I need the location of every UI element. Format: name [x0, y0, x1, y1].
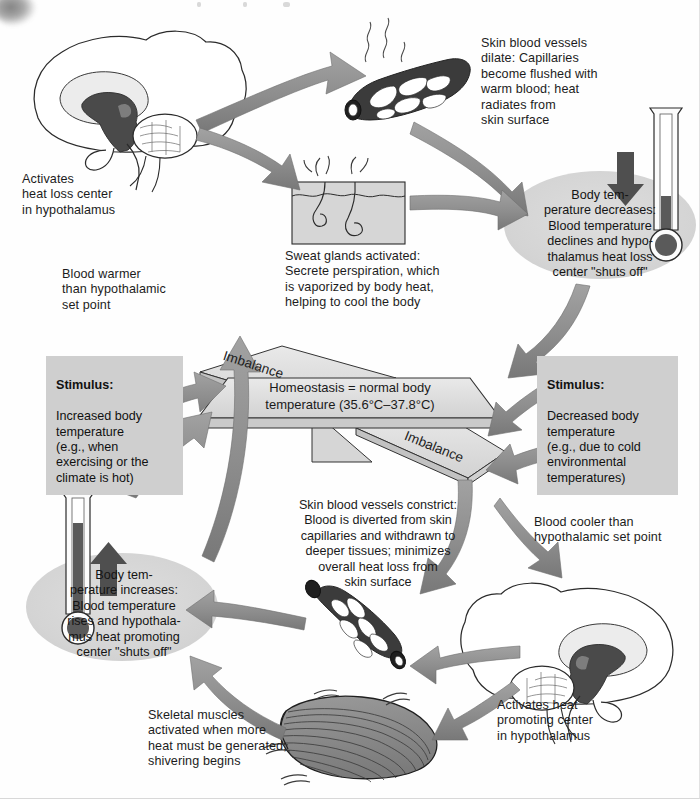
arrow-brain-to-sweat — [196, 128, 300, 190]
label-activates-heat-promoting: Activates heat promoting center in hypot… — [497, 698, 593, 744]
brain-sagittal-icon-top — [34, 31, 246, 192]
label-temp-increases: Body tem- perature increases: Blood temp… — [36, 568, 212, 660]
label-homeostasis: Homeostasis = normal body temperature (3… — [215, 379, 485, 413]
skeletal-muscle-icon — [264, 690, 437, 785]
label-blood-warmer: Blood warmer than hypothalamic set point — [62, 267, 166, 313]
diagram-canvas: Activates heat loss center in hypothalam… — [0, 0, 700, 799]
label-vessels-dilate: Skin blood vessels dilate: Capillaries b… — [481, 36, 598, 128]
dilated-capillary-bed-icon — [345, 59, 470, 120]
constricted-capillary-bed-icon — [303, 578, 409, 671]
stimulus-right-body: Decreased body temperature (e.g., due to… — [547, 409, 641, 485]
label-temp-decreases: Body tem- perature decreases: Blood temp… — [512, 188, 688, 280]
label-sweat-glands: Sweat glands activated: Secrete perspira… — [285, 249, 440, 311]
label-blood-cooler: Blood cooler than hypothalamic set point — [534, 515, 662, 546]
label-skeletal-muscles: Skeletal muscles activated when more hea… — [148, 708, 287, 770]
label-vessels-constrict: Skin blood vessels constrict: Blood is d… — [270, 498, 486, 590]
heat-waves-icon — [365, 18, 405, 62]
skin-sweat-gland-icon — [292, 156, 405, 244]
stimulus-left-heading: Stimulus: — [56, 378, 174, 393]
stimulus-right-box: Stimulus: Decreased body temperature (e.… — [537, 356, 678, 495]
stimulus-left-box: Stimulus: Increased body temperature (e.… — [46, 356, 183, 495]
label-activates-heat-loss: Activates heat loss center in hypothalam… — [22, 172, 115, 218]
stimulus-left-body: Increased body temperature (e.g., when e… — [56, 409, 148, 485]
stimulus-right-heading: Stimulus: — [547, 378, 669, 393]
